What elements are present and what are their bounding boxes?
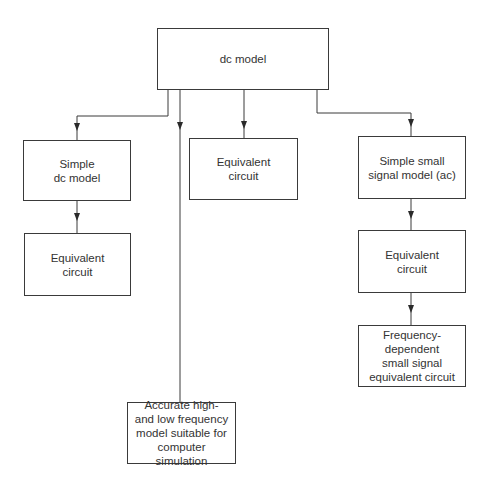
arrowhead-icon: [408, 305, 414, 313]
node-simple-small-signal-model: Simple small signal model (ac): [358, 136, 466, 199]
arrowhead-icon: [177, 122, 183, 130]
node-label: Equivalent circuit: [217, 155, 271, 183]
node-equivalent-circuit-right: Equivalent circuit: [358, 230, 466, 293]
connector-line: [77, 90, 168, 140]
arrowhead-icon: [408, 211, 414, 219]
node-equivalent-circuit-left: Equivalent circuit: [24, 233, 131, 296]
node-label: Simple dc model: [54, 157, 101, 185]
diagram-canvas: dc model Simple dc model Equivalent circ…: [0, 0, 489, 483]
node-label: Accurate high- and low frequency model s…: [132, 398, 231, 468]
node-frequency-dependent-circuit: Frequency- dependent small signal equiva…: [358, 325, 466, 387]
node-label: Frequency- dependent small signal equiva…: [369, 328, 455, 384]
arrowhead-icon: [241, 121, 247, 129]
node-dc-model: dc model: [157, 28, 329, 90]
arrowhead-icon: [408, 119, 414, 127]
arrowhead-icon: [74, 123, 80, 131]
node-label: Equivalent circuit: [51, 251, 105, 279]
node-label: dc model: [220, 52, 267, 66]
node-label: Equivalent circuit: [385, 248, 439, 276]
node-label: Simple small signal model (ac): [368, 154, 456, 182]
node-accurate-simulation-model: Accurate high- and low frequency model s…: [127, 402, 236, 464]
node-simple-dc-model: Simple dc model: [23, 140, 131, 201]
node-equivalent-circuit-middle: Equivalent circuit: [189, 138, 298, 200]
arrowhead-icon: [74, 213, 80, 221]
connector-line: [317, 90, 411, 136]
